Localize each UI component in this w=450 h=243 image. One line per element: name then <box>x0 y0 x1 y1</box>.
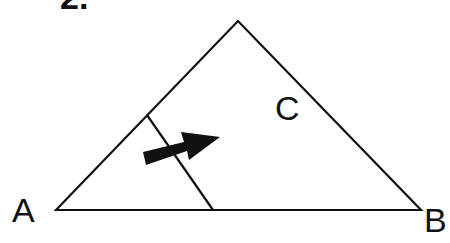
arrow-icon <box>143 132 220 165</box>
triangle-diagram: 2. A B C <box>0 0 450 243</box>
region-label-c: C <box>275 89 300 127</box>
vertex-label-a: A <box>12 191 35 229</box>
dividing-line <box>147 115 213 210</box>
figure-number: 2. <box>60 0 88 16</box>
vertex-label-b: B <box>424 201 447 239</box>
triangle-outline <box>56 21 421 210</box>
